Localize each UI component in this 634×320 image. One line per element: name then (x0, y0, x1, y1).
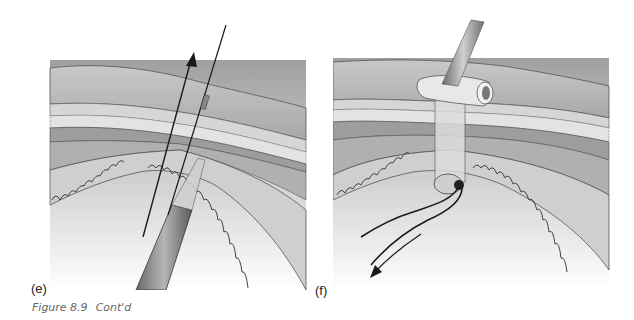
figure-panel-f (333, 0, 613, 290)
figure-caption-label: Figure 8.9 (32, 301, 88, 314)
figure-caption: Figure 8.9Cont'd (32, 301, 131, 314)
figure-panel-e (40, 0, 320, 290)
figure-caption-text: Cont'd (96, 301, 132, 314)
abdominal-wall-needle-illustration (40, 0, 320, 290)
panel-label-e: (e) (31, 281, 47, 296)
abdominal-wall-drain-illustration (333, 0, 613, 290)
panel-label-f: (f) (315, 283, 327, 298)
